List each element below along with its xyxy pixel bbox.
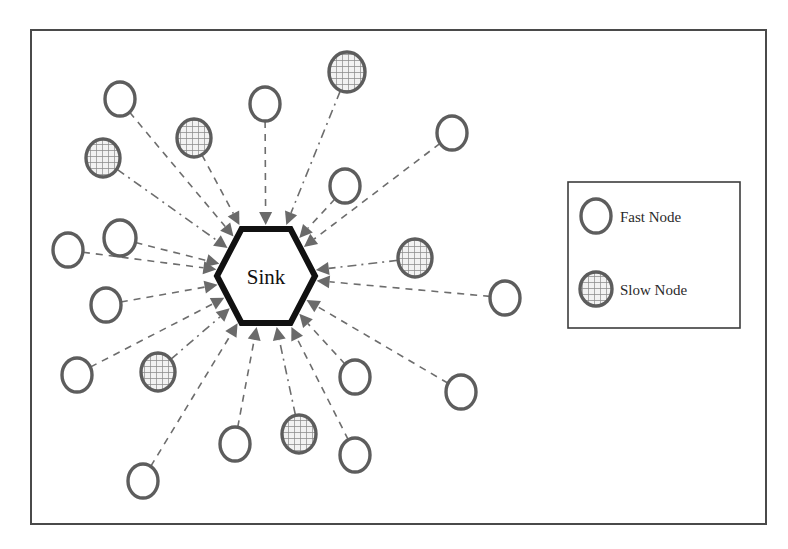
legend-label: Slow Node — [620, 282, 687, 298]
slow-node[interactable] — [177, 119, 211, 157]
figure-canvas: Sink Fast NodeSlow Node — [0, 0, 788, 549]
node-circle — [398, 239, 432, 277]
node-circle — [105, 82, 135, 116]
arrowhead-n12 — [216, 308, 230, 322]
fast-node[interactable] — [250, 87, 280, 121]
arrowhead-n16 — [307, 300, 322, 312]
fast-node[interactable] — [105, 82, 135, 116]
node-circle — [437, 116, 467, 150]
link-n8-to-sink — [83, 252, 204, 268]
slow-node[interactable] — [141, 353, 175, 391]
fast-node[interactable] — [330, 169, 360, 203]
network-diagram: Sink Fast NodeSlow Node — [0, 0, 788, 549]
slow-node[interactable] — [86, 139, 120, 177]
arrowhead-n13 — [316, 262, 330, 275]
fast-node[interactable] — [104, 220, 136, 256]
node-circle — [128, 464, 158, 498]
slow-node-swatch-icon — [580, 272, 612, 306]
fast-node[interactable] — [128, 464, 158, 498]
link-n19-to-sink — [279, 340, 295, 416]
arrowhead-n9 — [205, 254, 219, 267]
arrowhead-n10 — [204, 281, 218, 294]
arrowhead-n4 — [259, 212, 272, 225]
arrowhead-n1 — [220, 222, 233, 236]
arrowhead-n20 — [291, 327, 303, 342]
fast-node[interactable] — [437, 116, 467, 150]
node-circle — [330, 169, 360, 203]
link-n16-to-sink — [318, 307, 448, 384]
slow-node[interactable] — [282, 415, 316, 453]
arrowhead-n17 — [225, 323, 237, 338]
node-circle — [340, 438, 370, 472]
link-n12-to-sink — [171, 317, 220, 360]
node-circle — [282, 415, 316, 453]
link-n9-to-sink — [136, 243, 207, 261]
legend-label: Fast Node — [620, 209, 682, 225]
node-circle — [141, 353, 175, 391]
arrowhead-n14 — [317, 275, 331, 288]
fast-node[interactable] — [446, 375, 476, 409]
node-circle — [340, 360, 370, 394]
node-circle — [53, 233, 83, 267]
arrowhead-n18 — [248, 327, 261, 341]
link-n10-to-sink — [121, 287, 205, 302]
legend: Fast NodeSlow Node — [568, 182, 740, 328]
node-circle — [91, 288, 121, 322]
fast-node[interactable] — [62, 358, 92, 392]
fast-node[interactable] — [490, 281, 520, 315]
sink-node[interactable]: Sink — [217, 229, 315, 323]
node-circle — [250, 87, 280, 121]
arrowhead-n11 — [210, 298, 225, 310]
arrowhead-n19 — [273, 327, 286, 341]
slow-node[interactable] — [329, 52, 365, 92]
node-circle — [86, 139, 120, 177]
link-n18-to-sink — [238, 340, 255, 428]
slow-node[interactable] — [398, 239, 432, 277]
arrowhead-n7 — [304, 234, 318, 247]
link-n13-to-sink — [329, 260, 398, 268]
link-n14-to-sink — [330, 282, 491, 297]
node-circle — [104, 220, 136, 256]
fast-node-swatch-icon — [581, 199, 611, 233]
fast-node[interactable] — [340, 438, 370, 472]
link-n6-to-sink — [308, 199, 335, 229]
link-n4-to-sink — [265, 121, 266, 212]
node-circle — [177, 119, 211, 157]
fast-node[interactable] — [220, 427, 250, 461]
fast-node[interactable] — [53, 233, 83, 267]
fast-node[interactable] — [91, 288, 121, 322]
node-circle — [220, 427, 250, 461]
link-n15-to-sink — [308, 324, 345, 365]
node-circle — [62, 358, 92, 392]
arrowhead-n15 — [299, 314, 313, 328]
node-circle — [329, 52, 365, 92]
fast-node[interactable] — [340, 360, 370, 394]
arrowhead-n3 — [213, 235, 227, 248]
node-circle — [446, 375, 476, 409]
sink-label: Sink — [247, 265, 286, 289]
node-circle — [490, 281, 520, 315]
